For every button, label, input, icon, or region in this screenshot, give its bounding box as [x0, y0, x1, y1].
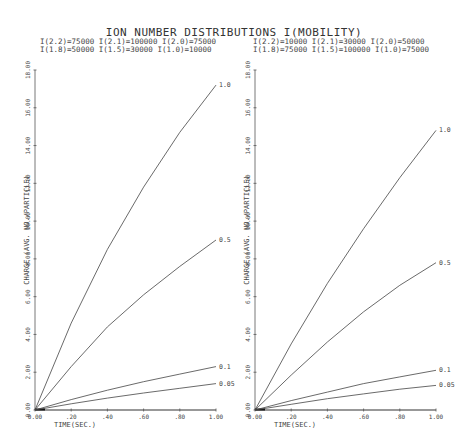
series-label: 1.0: [219, 81, 231, 89]
y-tick-label: 18.00: [244, 61, 251, 79]
y-tick-label: 14.00: [244, 136, 251, 154]
x-tick-label: 0.00: [28, 413, 43, 420]
y-tick-label: 14.00: [24, 136, 31, 154]
x-tick-label: .40: [102, 413, 113, 420]
x-tick-label: .20: [286, 413, 297, 420]
series-label: 0.5: [439, 259, 451, 267]
y-tick-label: 16.00: [244, 98, 251, 116]
y-axis-title: CHARGE (AVG. NO./PARTICLE): [243, 175, 251, 285]
y-tick-label: 2.00: [24, 365, 31, 380]
x-tick-label: .40: [322, 413, 333, 420]
series-line-0-05: [255, 385, 436, 410]
series-line-0-1: [255, 370, 436, 410]
series-line-1-0: [35, 85, 216, 410]
x-axis-title: TIME(SEC.): [274, 421, 316, 429]
x-tick-label: .80: [174, 413, 185, 420]
series-label: 1.0: [439, 126, 451, 134]
right-chart: 0.002.004.006.008.0010.0012.0014.0016.00…: [243, 61, 455, 429]
series-label: 0.1: [439, 366, 451, 374]
x-tick-label: .20: [66, 413, 77, 420]
x-tick-label: 1.00: [429, 413, 444, 420]
y-tick-label: 4.00: [24, 327, 31, 342]
x-axis-title: TIME(SEC.): [54, 421, 96, 429]
y-tick-label: 6.00: [24, 289, 31, 304]
series-line-0-1: [35, 367, 216, 410]
series-label: 0.5: [219, 236, 231, 244]
series-label: 0.1: [219, 363, 231, 371]
y-tick-label: 16.00: [24, 98, 31, 116]
y-tick-label: 18.00: [24, 61, 31, 79]
y-tick-label: 4.00: [244, 327, 251, 342]
series-line-0-05: [35, 384, 216, 410]
x-tick-label: .60: [358, 413, 369, 420]
y-axis-title: CHARGE (AVG. NO./PARTICLE): [23, 175, 31, 285]
x-tick-label: 1.00: [209, 413, 224, 420]
series-line-0-5: [35, 240, 216, 410]
series-label: 0.05: [439, 381, 455, 389]
left-chart: 0.002.004.006.008.0010.0012.0014.0016.00…: [23, 61, 235, 429]
y-tick-label: 6.00: [244, 289, 251, 304]
plot-canvas: 0.002.004.006.008.0010.0012.0014.0016.00…: [0, 0, 468, 440]
x-tick-label: .80: [394, 413, 405, 420]
series-label: 0.05: [219, 380, 235, 388]
series-line-1-0: [255, 130, 436, 410]
x-tick-label: 0.00: [248, 413, 263, 420]
x-tick-label: .60: [138, 413, 149, 420]
y-tick-label: 2.00: [244, 365, 251, 380]
